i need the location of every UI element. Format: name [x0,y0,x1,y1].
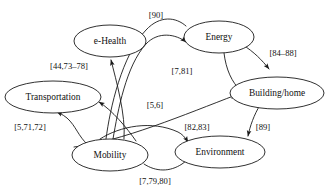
node-e-health[interactable]: e-Health [74,25,146,57]
node-transportation-label: Transportation [26,92,81,102]
node-environment-label: Environment [196,147,245,157]
relationship-diagram: e-Health Energy Transportation Building/… [0,0,330,193]
nodes-layer: e-Health Energy Transportation Building/… [5,21,324,171]
edge-label-5-6: [5,6] [147,100,164,110]
node-e-health-label: e-Health [94,36,127,46]
node-building-home-label: Building/home [249,88,305,98]
edge-energy-to-building [243,45,269,69]
edge-label-44-73-78: [44,73–78] [50,61,88,71]
edge-mobility-to-transportation-lower [57,112,88,145]
edge-label-7-81: [7,81] [172,66,193,76]
graph-canvas: e-Health Energy Transportation Building/… [0,0,330,193]
edge-mobility-to-transportation-upper [99,102,136,141]
edge-label-82-83: [82,83] [184,122,209,132]
edge-label-89: [89] [256,122,270,132]
edge-label-84-88: [84–88] [269,48,296,58]
edge-label-90: [90] [149,10,163,20]
node-energy[interactable]: Energy [184,21,254,53]
node-mobility[interactable]: Mobility [72,139,148,171]
edge-label-7-79-80: [7,79,80] [139,176,171,186]
node-mobility-label: Mobility [94,150,127,160]
node-transportation[interactable]: Transportation [5,81,101,113]
node-energy-label: Energy [206,32,233,42]
node-building-home[interactable]: Building/home [230,77,324,109]
node-environment[interactable]: Environment [175,136,265,168]
edge-label-5-71-72: [5,71,72] [14,122,46,132]
